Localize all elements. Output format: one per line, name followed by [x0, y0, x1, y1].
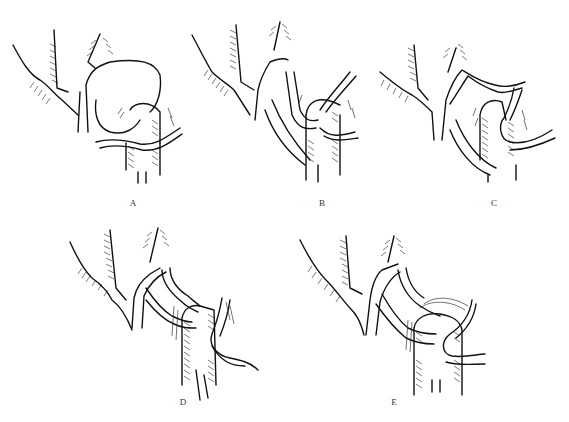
panel-c-label: C — [491, 198, 497, 208]
figure-canvas: A B — [0, 0, 569, 422]
panel-a-drawing — [0, 0, 190, 200]
panel-d: D — [50, 210, 280, 410]
panel-e: E — [290, 210, 490, 410]
panel-a-label: A — [130, 198, 137, 208]
panel-b: B — [190, 0, 380, 200]
panel-b-label: B — [319, 198, 325, 208]
panel-c: C — [380, 0, 569, 200]
panel-d-drawing — [50, 210, 280, 410]
panel-e-drawing — [290, 210, 490, 410]
panel-d-label: D — [180, 397, 187, 407]
panel-c-drawing — [380, 0, 569, 200]
panel-e-label: E — [391, 397, 397, 407]
panel-b-drawing — [190, 0, 380, 200]
panel-a: A — [0, 0, 190, 200]
